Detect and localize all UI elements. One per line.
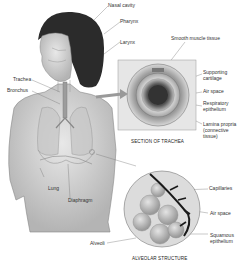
label-alveoli: Alveoli: [90, 241, 105, 247]
torso: [9, 82, 116, 232]
alveolar-structure-inset: [124, 171, 200, 247]
head: [38, 12, 104, 92]
label-epithelium-alveolar: epithelium: [210, 239, 233, 245]
label-diaphragm: Diaphragm: [68, 198, 92, 204]
label-epithelium: epithelium: [203, 107, 226, 113]
label-air-space-alveolar: Air space: [210, 211, 231, 217]
caption-alveolar-structure: ALVEOLAR STRUCTURE: [132, 256, 187, 261]
label-smooth-muscle: Smooth muscle tissue: [171, 36, 220, 42]
label-bronchus: Bronchus: [7, 88, 28, 94]
label-air-space-trachea: Air space: [203, 89, 224, 95]
caption-trachea-section: SECTION OF TRACHEA: [131, 139, 184, 144]
label-lung: Lung: [48, 186, 59, 192]
label-nasal-cavity: Nasal cavity: [108, 3, 135, 9]
label-capillaries: Capillaries: [209, 186, 232, 192]
label-cartilage: cartilage: [203, 76, 222, 82]
label-larynx: Larynx: [120, 40, 135, 46]
label-trachea: Trachea: [13, 77, 31, 83]
label-tissue: tissue): [203, 134, 218, 140]
label-pharynx: Pharynx: [120, 19, 138, 25]
